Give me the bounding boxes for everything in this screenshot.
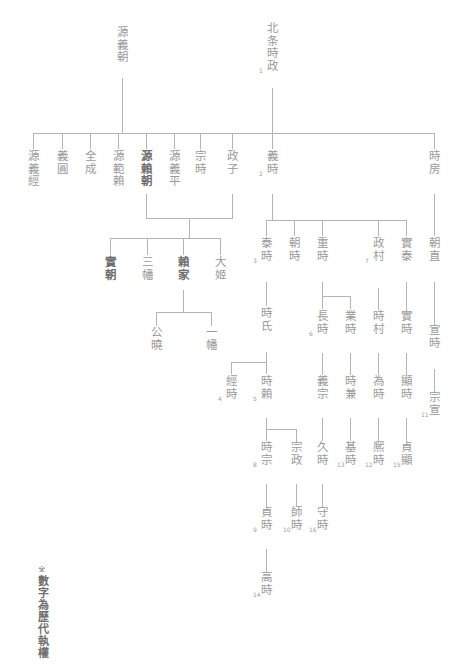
- connector-drop-yoshihira: [174, 133, 175, 149]
- footnote-marker: ※: [37, 564, 47, 575]
- connector-yoriie-children-bar: [156, 312, 211, 313]
- node-yoshimune: 義宗: [316, 375, 328, 400]
- connector-drop-tomotoki: [294, 220, 295, 236]
- footnote-text: 數字為歷代執權: [36, 575, 49, 659]
- connector-munemasa-morotoki: [296, 484, 297, 506]
- connector-drop-sanetomo: [110, 238, 111, 255]
- connector-naritoki-tokikane: [350, 353, 351, 375]
- node-hojo-tokimasa: 北条時政 1: [266, 22, 278, 72]
- node-yoshitoki: 義時 2: [266, 150, 278, 175]
- node-tomonao: 朝直: [428, 237, 440, 262]
- connector-nobutoki-munenobu: [434, 369, 435, 391]
- node-tokiuji: 時氏: [260, 307, 272, 332]
- connector-drop-yoshitsune: [33, 133, 34, 149]
- connector-drop-yoriie: [183, 238, 184, 255]
- node-minamoto-yoritomo: 源賴朝: [140, 150, 152, 188]
- connector-yoshitomo-down: [122, 78, 123, 133]
- connector-sadatoki-takatoki: [266, 549, 267, 571]
- connector-drop-shigetoki: [322, 220, 323, 236]
- node-moritoki: 守時 16: [316, 506, 328, 531]
- connector-drop-yoshitoki: [272, 133, 273, 149]
- connector-drop-nagatoki: [322, 296, 323, 309]
- connector-yoshitoki-children-bar: [266, 220, 406, 221]
- connector-tokimune-sadatoki: [266, 484, 267, 506]
- connector-tokimura-tametoki: [378, 353, 379, 375]
- connector-drop-zenjo: [90, 133, 91, 149]
- node-minamoto-noriyori: 源範賴: [112, 150, 124, 188]
- connector-saneyasu-sanetoki: [406, 282, 407, 310]
- connector-tokikane-mototoki: [350, 418, 351, 441]
- node-akitoki: 顯時: [400, 375, 412, 400]
- genealogy-chart: 源義朝 源義經 義圓 全成 源範賴 源賴朝 源義平 實朝 三幡 賴家 大姬: [0, 0, 466, 668]
- node-sadatoki: 貞時 9: [260, 506, 272, 531]
- connector-drop-tokiyori: [266, 362, 267, 374]
- connector-tokiyori-children-bar: [266, 429, 296, 430]
- node-tokimura: 時村: [372, 310, 384, 335]
- connector-drop-tokifusa: [434, 133, 435, 149]
- connector-tametoki-hirotoki: [378, 418, 379, 441]
- node-naritoki: 業時: [344, 310, 356, 335]
- connector-tomonao-nobutoki: [434, 282, 435, 324]
- connector-yoshitoki-down: [272, 194, 273, 220]
- connector-tokiyori-down: [266, 418, 267, 429]
- connector-nagatoki-yoshimune: [322, 353, 323, 375]
- connector-yoshimune-hisatoki: [322, 418, 323, 441]
- chart-footnote: ※數字為歷代執權: [36, 564, 48, 659]
- connector-yoriie-down: [183, 290, 184, 312]
- node-tametoki: 為時: [372, 375, 384, 400]
- connector-drop-saneyasu: [406, 220, 407, 236]
- node-takatoki: 高時 14: [260, 571, 272, 596]
- node-masamura: 政村 7: [372, 237, 384, 262]
- node-sanman: 三幡: [141, 256, 153, 281]
- connector-drop-ichiman: [211, 312, 212, 326]
- connector-shigetoki-children-bar: [322, 296, 350, 297]
- node-saneyasu: 實泰: [400, 237, 412, 262]
- connector-drop-yoritomo: [146, 133, 147, 149]
- node-gien: 義圓: [56, 150, 68, 175]
- connector-drop-munetoki: [200, 133, 201, 149]
- connector-tokiuji-down: [266, 352, 267, 362]
- connector-drop-gien: [62, 133, 63, 149]
- node-tomotoki: 朝時: [288, 237, 300, 262]
- connector-drop-masamura: [378, 220, 379, 236]
- node-tsunetoki: 經時 4: [225, 375, 237, 400]
- node-munetoki: 宗時: [194, 150, 206, 175]
- node-minamoto-yoshihira: 源義平: [168, 150, 180, 188]
- connector-yoritomo-children-bar: [110, 238, 220, 239]
- connector-yoritomo-down: [146, 194, 147, 218]
- node-sanetoki: 實時: [400, 310, 412, 335]
- node-yasutoki: 泰時 3: [260, 237, 272, 262]
- connector-drop-sanman: [147, 238, 148, 255]
- node-shigetoki: 重時: [316, 237, 328, 262]
- node-tokiyori: 時賴 5: [260, 375, 272, 400]
- node-munemasa: 宗政: [290, 441, 302, 466]
- node-tokikane: 時兼: [344, 375, 356, 400]
- connector-drop-tokimune: [266, 429, 267, 441]
- node-ohime: 大姬: [214, 256, 226, 281]
- connector-marriage-children-stem: [189, 218, 190, 238]
- connector-tokimasa-children-bar: [200, 133, 434, 134]
- node-kugyo: 公曉: [150, 326, 162, 351]
- connector-tokiuji-children-bar: [231, 362, 267, 363]
- connector-drop-noriyori: [118, 133, 119, 149]
- node-munenobu: 宗宣 11: [428, 391, 440, 416]
- connector-drop-munemasa: [296, 429, 297, 441]
- connector-drop-tsunetoki: [231, 362, 232, 374]
- node-hisatoki: 久時: [316, 441, 328, 466]
- connector-tokifusa-tomonao: [434, 194, 435, 236]
- node-tokimune: 時宗 8: [260, 441, 272, 466]
- node-sadaaki: 貞顯 15: [400, 441, 412, 466]
- connector-akitoki-sadaaki: [406, 418, 407, 441]
- node-ichiman: 一幡: [205, 326, 217, 351]
- node-minamoto-yoshitomo: 源義朝: [116, 26, 128, 64]
- node-mototoki: 基時 13: [344, 441, 356, 466]
- connector-hisatoki-moritoki: [322, 484, 323, 506]
- connector-shigetoki-down: [322, 282, 323, 296]
- connector-sanetoki-akitoki: [406, 353, 407, 375]
- connector-tokimasa-down: [272, 88, 273, 133]
- node-hirotoki: 熈時 12: [372, 441, 384, 466]
- node-sanetomo: 實朝: [104, 256, 116, 281]
- node-morotoki: 師時 10: [290, 506, 302, 531]
- connector-drop-naritoki: [350, 296, 351, 309]
- node-yoriie: 賴家: [177, 256, 189, 281]
